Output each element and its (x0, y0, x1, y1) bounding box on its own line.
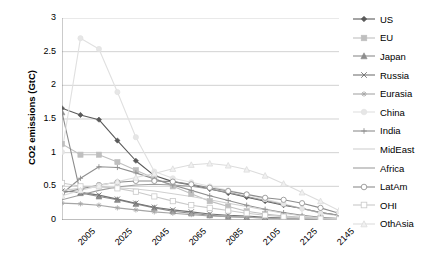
data-point-marker (318, 205, 323, 210)
legend-item-japan[interactable]: Japan (352, 47, 444, 66)
data-point-marker (281, 181, 287, 187)
legend-key-china-icon (352, 106, 376, 118)
data-point-marker (336, 217, 339, 220)
data-point-marker (78, 201, 83, 206)
x-axis-tick-label: 2105 (261, 226, 282, 247)
data-point-marker (281, 214, 286, 219)
series-line-us (62, 108, 339, 215)
data-point-marker (263, 195, 268, 200)
legend-item-ohi[interactable]: OHI (352, 196, 444, 215)
data-point-marker (78, 152, 83, 157)
legend-key-eurasia-icon (352, 88, 376, 100)
data-point-marker (207, 205, 212, 210)
data-point-marker (226, 214, 231, 219)
legend-key-africa-icon (352, 162, 376, 174)
data-point-marker (361, 91, 367, 97)
data-point-marker (336, 208, 339, 214)
legend-item-mideast[interactable]: MidEast (352, 140, 444, 159)
legend-item-eu[interactable]: EU (352, 29, 444, 48)
legend-item-latam[interactable]: LatAm (352, 177, 444, 196)
legend-label: OHI (376, 200, 397, 211)
legend-key-othasia-icon (352, 218, 376, 230)
series-line-india (62, 167, 339, 219)
data-point-marker (318, 198, 324, 204)
data-point-marker (244, 211, 249, 216)
legend-label: Russia (376, 70, 409, 81)
y-axis-tick-label: 1 (30, 147, 56, 157)
legend-label: Japan (376, 51, 406, 62)
data-point-marker (133, 189, 138, 194)
data-point-marker (189, 203, 194, 208)
series-line-africa (62, 184, 339, 215)
x-axis-tick-label: 2125 (297, 226, 318, 247)
legend-key-japan-icon (352, 50, 376, 62)
data-point-marker (115, 165, 120, 170)
data-point-marker (361, 35, 367, 41)
data-point-marker (226, 188, 231, 193)
data-point-marker (244, 192, 249, 197)
legend-label: LatAm (376, 181, 407, 192)
y-axis-tick-label: 2.5 (30, 46, 56, 56)
legend-key-latam-icon (352, 181, 376, 193)
legend-label: Eurasia (376, 88, 412, 99)
data-point-marker (207, 213, 212, 218)
legend-key-us-icon (352, 13, 376, 25)
data-point-marker (62, 149, 65, 154)
data-point-marker (318, 216, 323, 220)
data-point-marker (78, 36, 83, 41)
legend-item-china[interactable]: China (352, 103, 444, 122)
legend-item-russia[interactable]: Russia (352, 66, 444, 85)
data-point-marker (96, 46, 101, 51)
data-point-marker (189, 182, 194, 187)
legend-label: EU (376, 32, 393, 43)
x-axis-tick-label: 2045 (150, 226, 171, 247)
x-axis-tick-label: 2005 (76, 226, 97, 247)
data-point-marker (361, 202, 367, 208)
data-point-marker (170, 199, 175, 204)
data-point-marker (78, 112, 83, 117)
data-point-marker (207, 193, 212, 198)
data-point-marker (299, 189, 305, 195)
legend-key-mideast-icon (352, 143, 376, 155)
legend-item-eurasia[interactable]: Eurasia (352, 84, 444, 103)
data-point-marker (96, 203, 101, 208)
data-point-marker (96, 152, 101, 157)
y-axis-tick-label: 1.5 (30, 113, 56, 123)
data-point-marker (226, 208, 231, 213)
data-point-marker (62, 201, 65, 206)
data-point-marker (152, 209, 157, 214)
data-point-marker (62, 141, 65, 146)
data-point-marker (115, 186, 120, 191)
legend-item-africa[interactable]: Africa (352, 159, 444, 178)
legend-key-russia-icon (352, 69, 376, 81)
data-point-marker (263, 213, 268, 218)
legend-label: China (376, 107, 405, 118)
data-point-marker (299, 201, 304, 206)
data-point-marker (133, 135, 138, 140)
data-point-marker (152, 194, 157, 199)
y-axis-tick-label: 3 (30, 12, 56, 22)
data-point-marker (299, 215, 304, 220)
legend-label: OthAsia (376, 218, 414, 229)
legend-key-eu-icon (352, 32, 376, 44)
legend-key-india-icon (352, 125, 376, 137)
legend-label: US (376, 14, 393, 25)
data-point-marker (115, 159, 120, 164)
y-axis-tick-label: 0 (30, 214, 56, 224)
chart-legend: USEUJapanRussiaEurasiaChinaIndiaMidEastA… (352, 10, 444, 233)
data-point-marker (207, 199, 212, 204)
data-point-marker (361, 16, 367, 22)
legend-item-us[interactable]: US (352, 10, 444, 29)
chart-container: CO2 emissions (GtC) 00.511.522.53 200520… (0, 0, 444, 267)
data-point-marker (361, 109, 367, 115)
x-axis-tick-label: 2085 (224, 226, 245, 247)
plot-area (62, 18, 339, 220)
y-axis-tick-label: 2 (30, 79, 56, 89)
data-point-marker (133, 207, 138, 212)
legend-item-othasia[interactable]: OthAsia (352, 215, 444, 234)
data-point-marker (361, 128, 367, 134)
data-point-marker (62, 109, 65, 115)
data-point-marker (152, 178, 157, 183)
data-point-marker (170, 179, 175, 184)
legend-item-india[interactable]: India (352, 122, 444, 141)
